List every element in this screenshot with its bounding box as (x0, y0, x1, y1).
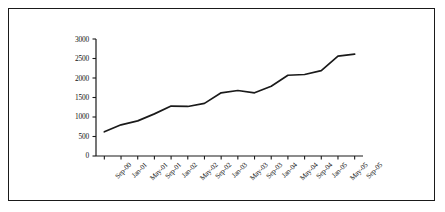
data-series-line (104, 54, 354, 132)
line-chart: 3000 2500 2000 1500 1000 500 0 (0, 0, 445, 212)
chart-page: 3000 2500 2000 1500 1000 500 0 (0, 0, 445, 212)
plot-area (0, 0, 445, 212)
